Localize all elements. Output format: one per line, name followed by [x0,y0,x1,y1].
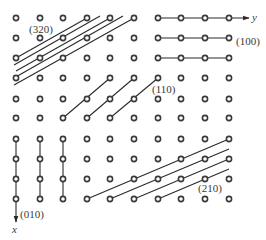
lattice-point [178,15,183,20]
lattice-point [37,96,42,101]
lattice-point [226,15,231,20]
lattice-point [202,35,207,40]
lattice-point [107,96,112,101]
lattice-point [155,75,160,80]
lattice-point [84,75,89,80]
label-100: (100) [236,35,260,48]
lattice-point [60,96,65,101]
lattice-points [13,15,231,201]
lattice-point [178,75,183,80]
lattice-point [107,15,112,20]
lattice-point [131,96,136,101]
lattice-point [60,55,65,60]
lattice-point [37,196,42,201]
lattice-point [226,196,231,201]
lattice-point [84,115,89,120]
lattice-point [84,136,89,141]
lattice-point [226,115,231,120]
lattice-point [37,176,42,181]
lattice-point [202,15,207,20]
lattice-point [202,136,207,141]
lattice-point [107,75,112,80]
lattice-point [107,196,112,201]
lattice-point [13,96,18,101]
lattice-point [60,196,65,201]
lattice-point [13,35,18,40]
lattice-point [13,15,18,20]
lattice-point [131,196,136,201]
lattice-point [84,176,89,181]
lattice-point [155,96,160,101]
label-110: (110) [152,83,176,96]
lattice-point [60,156,65,161]
lattice-point [13,156,18,161]
lattice-point [202,115,207,120]
lattice-point [131,55,136,60]
lattice-point [13,176,18,181]
lattice-point [178,196,183,201]
label-320: (320) [29,23,53,36]
lattice-point [37,15,42,20]
lattice-point [37,55,42,60]
lattice-point [107,156,112,161]
lattice-point [178,156,183,161]
lattice-point [13,136,18,141]
lattice-point [107,55,112,60]
lattice-point [84,96,89,101]
lattice-point [178,55,183,60]
lattice-point [131,35,136,40]
lattice-point [131,176,136,181]
lattice-point [131,115,136,120]
lattice-point [13,196,18,201]
lattice-point [131,136,136,141]
lattice-point [60,35,65,40]
lattice-point [226,55,231,60]
label-210: (210) [198,182,222,195]
lattice-point [202,55,207,60]
lattice-point [131,156,136,161]
lattice-point [155,115,160,120]
lattice-point [13,55,18,60]
lattice-point [226,75,231,80]
lattice-point [226,96,231,101]
lattice-point [60,176,65,181]
lattice-point [155,176,160,181]
lattice-point [226,176,231,181]
lattice-point [155,136,160,141]
lattice-diagram: (320) (100) (110) (210) (010) y x [0,0,266,240]
lattice-point [155,35,160,40]
lattice-point [178,96,183,101]
lattice-point [178,176,183,181]
lattice-point [226,35,231,40]
lattice-point [84,55,89,60]
label-010: (010) [20,208,44,221]
lattice-point [178,136,183,141]
lattice-point [107,176,112,181]
lattice-point [13,75,18,80]
lattice-point [107,115,112,120]
y-axis-label: y [251,11,257,23]
lattice-point [84,196,89,201]
planes-010 [40,139,63,199]
lattice-point [13,115,18,120]
lattice-point [37,75,42,80]
lattice-point [155,15,160,20]
lattice-point [107,35,112,40]
lattice-point [60,15,65,20]
lattice-point [84,156,89,161]
lattice-point [131,15,136,20]
lattice-point [178,115,183,120]
lattice-point [131,75,136,80]
lattice-point [84,35,89,40]
x-axis-label: x [11,223,17,235]
lattice-point [226,136,231,141]
lattice-point [226,156,231,161]
lattice-point [37,115,42,120]
lattice-point [155,55,160,60]
lattice-point [202,96,207,101]
lattice-point [84,15,89,20]
lattice-point [60,136,65,141]
lattice-point [37,35,42,40]
lattice-point [155,196,160,201]
lattice-point [107,136,112,141]
